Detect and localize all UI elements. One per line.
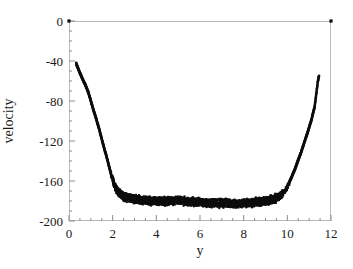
x-tick-label: 4 — [153, 227, 160, 240]
chart-container: 0-40-80-120-160-200 024681012 y velocity — [0, 0, 353, 269]
y-tick-label: -120 — [39, 135, 63, 148]
x-tick-label: 12 — [325, 227, 338, 240]
x-tick-label: 8 — [240, 227, 247, 240]
y-tick-label: -200 — [39, 215, 63, 228]
y-tick-label: -40 — [46, 55, 63, 68]
x-tick-label: 6 — [197, 227, 204, 240]
y-tick-label: -160 — [39, 175, 63, 188]
y-axis-title: velocity — [1, 98, 17, 143]
x-tick-label: 2 — [109, 227, 116, 240]
x-tick-label: 0 — [66, 227, 73, 240]
y-tick-label: 0 — [57, 15, 64, 28]
x-axis-title: y — [197, 243, 204, 259]
plot-frame — [69, 21, 331, 221]
y-tick-label: -80 — [46, 95, 63, 108]
x-tick-label: 10 — [281, 227, 294, 240]
